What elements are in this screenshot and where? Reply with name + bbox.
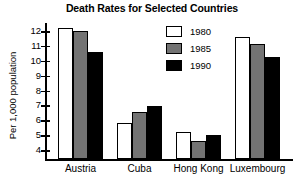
y-tick-mark (41, 135, 50, 137)
bar-group (58, 20, 103, 159)
bar-group (235, 20, 280, 159)
chart-legend: 198019851990 (166, 25, 228, 76)
legend-label-1990: 1990 (190, 59, 211, 72)
legend-item-1985: 1985 (166, 42, 228, 57)
bar-luxembourg-1990 (265, 57, 280, 159)
legend-label-1980: 1980 (190, 25, 211, 38)
bar-cuba-1990 (147, 106, 162, 159)
legend-label-1985: 1985 (190, 42, 211, 55)
y-tick-label: 11 (19, 40, 41, 51)
y-axis-title: Per 1,000 population (7, 36, 18, 156)
y-tick-mark (41, 46, 50, 48)
y-tick-mark (41, 105, 50, 107)
category-label-luxembourg: Luxembourg (217, 163, 298, 175)
y-tick-label: 7 (19, 99, 41, 110)
y-tick-label: 5 (19, 129, 41, 140)
y-tick-mark (41, 76, 50, 78)
legend-item-1980: 1980 (166, 25, 228, 40)
legend-swatch-1990 (166, 60, 182, 71)
legend-swatch-1985 (166, 43, 182, 54)
y-tick-label: 8 (19, 85, 41, 96)
y-tick-mark (41, 91, 50, 93)
bar-cuba-1985 (132, 112, 147, 159)
y-tick-mark (41, 120, 50, 122)
bar-cuba-1980 (117, 123, 132, 159)
y-tick-label: 4 (19, 144, 41, 155)
bar-hong-kong-1990 (206, 135, 221, 159)
y-tick-label: 6 (19, 114, 41, 125)
legend-item-1990: 1990 (166, 59, 228, 74)
y-tick-mark (41, 150, 50, 152)
bar-luxembourg-1980 (235, 37, 250, 159)
y-tick-label: 9 (19, 70, 41, 81)
bar-austria-1990 (88, 52, 103, 159)
bar-hong-kong-1980 (176, 132, 191, 159)
y-tick-mark (41, 61, 50, 63)
y-tick-mark (41, 31, 50, 33)
y-tick-label: 12 (19, 25, 41, 36)
bar-group (117, 20, 162, 159)
y-tick-label: 10 (19, 55, 41, 66)
bar-hong-kong-1985 (191, 141, 206, 159)
bar-luxembourg-1985 (250, 44, 265, 159)
bar-austria-1985 (73, 31, 88, 159)
x-axis-line (45, 159, 293, 161)
chart-title: Death Rates for Selected Countries (52, 2, 252, 14)
bar-austria-1980 (58, 28, 73, 159)
bar-chart: Death Rates for Selected Countries Per 1… (0, 0, 298, 191)
legend-swatch-1980 (166, 26, 182, 37)
